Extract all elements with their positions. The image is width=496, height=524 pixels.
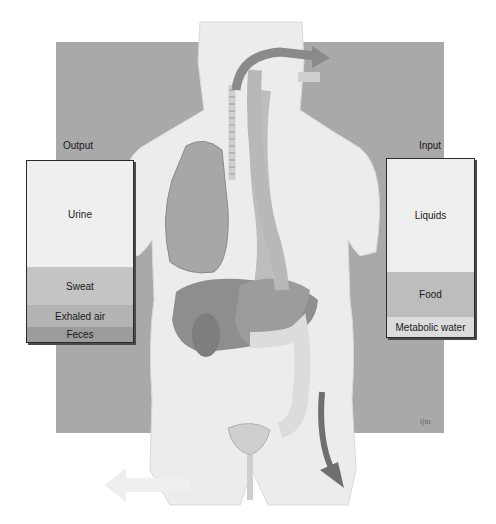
output-segment-exhaled-air: Exhaled air <box>27 305 133 327</box>
artist-signature: tjm <box>420 417 431 426</box>
kidney <box>192 313 220 357</box>
output-segment-sweat: Sweat <box>27 267 133 305</box>
input-label: Input <box>400 140 460 151</box>
water-balance-diagram: tjm Output Urine Sweat Exhaled air Feces… <box>0 0 496 524</box>
segment-label: Feces <box>66 329 93 340</box>
segment-label: Exhaled air <box>55 311 105 322</box>
input-segment-metabolic-water: Metabolic water <box>387 317 474 337</box>
segment-label: Food <box>419 289 442 300</box>
output-segment-feces: Feces <box>27 327 133 342</box>
segment-label: Liquids <box>415 210 447 221</box>
output-segment-urine: Urine <box>27 161 133 267</box>
segment-label: Metabolic water <box>395 322 465 333</box>
input-bar: Liquids Food Metabolic water <box>386 158 475 338</box>
segment-label: Urine <box>68 209 92 220</box>
segment-label: Sweat <box>66 281 94 292</box>
input-segment-liquids: Liquids <box>387 159 474 272</box>
output-bar: Urine Sweat Exhaled air Feces <box>26 160 134 343</box>
input-segment-food: Food <box>387 272 474 317</box>
arrowhead-icon <box>312 46 330 68</box>
output-label: Output <box>48 140 108 151</box>
inhaled-arrow <box>298 72 320 82</box>
